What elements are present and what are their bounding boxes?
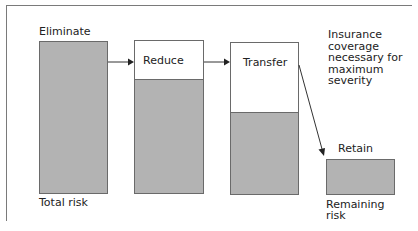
arrow-transfer-to-retain-icon: [299, 65, 325, 156]
arrow-reduce-to-transfer-icon: [204, 59, 230, 66]
connector-arrows: [0, 0, 418, 231]
arrow-eliminate-to-reduce-icon: [108, 59, 134, 66]
